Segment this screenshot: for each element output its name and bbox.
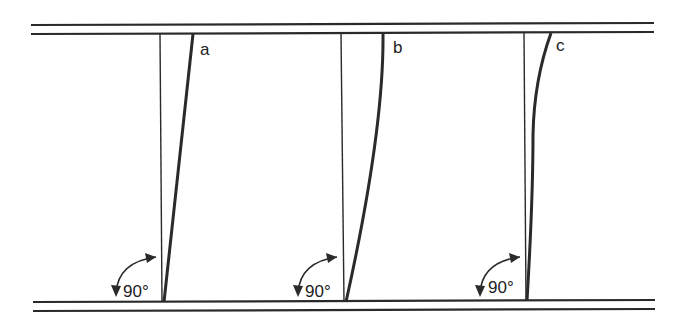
arrowhead-icon bbox=[293, 285, 303, 297]
panel-c: 90° c bbox=[475, 33, 565, 301]
panel-label-c: c bbox=[556, 36, 565, 55]
angle-label-b: 90° bbox=[305, 282, 331, 301]
deformed-line-c bbox=[527, 33, 551, 301]
arrowhead-icon bbox=[475, 285, 485, 297]
panel-label-a: a bbox=[200, 40, 210, 59]
arrowhead-icon bbox=[326, 253, 337, 263]
panel-a: 90° a bbox=[111, 34, 210, 302]
panel-b: 90° b bbox=[293, 34, 402, 302]
top-plate bbox=[31, 23, 654, 34]
arrowhead-icon bbox=[145, 253, 156, 263]
reference-line-b bbox=[341, 34, 344, 302]
angle-label-c: 90° bbox=[488, 278, 514, 297]
deformed-line-b bbox=[346, 34, 383, 302]
reference-line-a bbox=[160, 34, 162, 302]
deformed-line-a bbox=[164, 34, 193, 302]
reference-line-c bbox=[524, 33, 526, 301]
arrowhead-icon bbox=[509, 253, 520, 263]
arrowhead-icon bbox=[111, 285, 121, 297]
shear-diagram: 90° a 90° b 90° c bbox=[0, 0, 675, 322]
panel-label-b: b bbox=[393, 38, 402, 57]
angle-label-a: 90° bbox=[123, 282, 149, 301]
